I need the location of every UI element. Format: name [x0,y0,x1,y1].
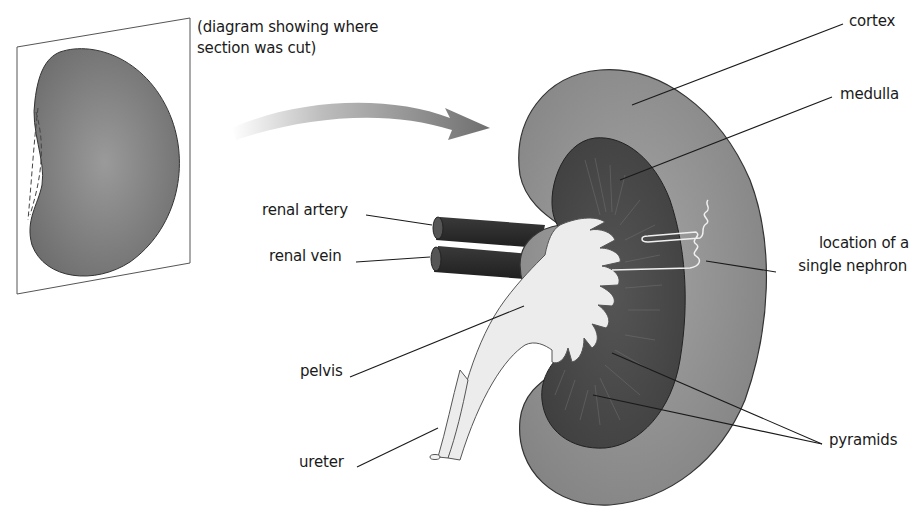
label-pelvis: pelvis [300,362,343,380]
renal-vein [431,246,530,279]
label-nephron-line-2: single nephron [798,257,907,275]
label-renal-artery: renal artery [262,201,348,219]
caption: (diagram showing where section was cut) [197,17,378,59]
label-pyramids: pyramids [829,431,897,449]
label-nephron-line-1: location of a [819,234,909,252]
caption-line-1: (diagram showing where [197,17,378,38]
direction-arrow [232,103,490,140]
label-cortex: cortex [849,12,895,30]
label-ureter: ureter [299,453,344,471]
label-medulla: medulla [840,85,899,103]
caption-line-2: section was cut) [197,38,378,59]
label-renal-vein: renal vein [269,247,341,265]
kidney-section-diagram: (diagram showing where section was cut) … [0,0,919,515]
